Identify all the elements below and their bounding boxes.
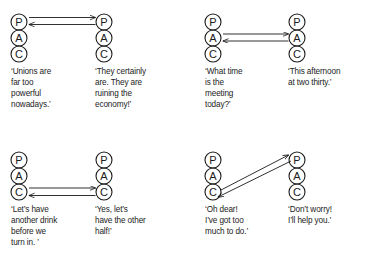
left-person-caption: ‘Unions are far too powerful nowadays.’: [11, 66, 91, 110]
ego-state-child-label: C: [15, 186, 23, 198]
ego-state-child-label: C: [15, 48, 23, 60]
transaction-arrow-stimulus: [221, 155, 289, 190]
transaction-panel-child-to-parent: P A C P A C ‘Oh dear! I’ve got too much …: [185, 138, 369, 275]
right-person-caption: ‘Don’t worry! I’ll help you.’: [288, 204, 369, 226]
ego-state-adult-label: A: [100, 32, 108, 44]
ego-state-adult-label: A: [209, 170, 217, 182]
ego-state-parent-label: P: [209, 16, 216, 28]
ego-state-adult-label: A: [100, 170, 108, 182]
ego-state-child-label: C: [209, 48, 217, 60]
left-person-caption: ‘What time is the meeting today?’: [205, 66, 283, 110]
ego-state-child-label: C: [293, 48, 301, 60]
ego-state-parent-label: P: [100, 16, 107, 28]
transaction-panel-child-to-child: P A C P A C ‘Let’s have another drink be…: [0, 138, 184, 275]
right-person-caption: ‘Yes, let’s have the other half!’: [95, 204, 181, 237]
pac-diagram: P A C P A C: [0, 0, 184, 68]
transaction-panel-adult-to-adult: P A C P A C ‘What time is the meeting to…: [185, 0, 369, 137]
ego-state-child-label: C: [293, 186, 301, 198]
ego-state-parent-label: P: [15, 16, 22, 28]
ego-state-child-label: C: [209, 186, 217, 198]
pac-diagram: P A C P A C: [0, 138, 184, 206]
ego-state-adult-label: A: [209, 32, 217, 44]
right-person-caption: ‘They certainly are. They are ruining th…: [95, 66, 181, 110]
left-person-caption: ‘Oh dear! I’ve got too much to do.’: [205, 204, 285, 237]
ego-state-parent-label: P: [293, 154, 300, 166]
ego-state-parent-label: P: [15, 154, 22, 166]
ego-state-parent-label: P: [293, 16, 300, 28]
ego-state-adult-label: A: [293, 32, 301, 44]
ego-state-child-label: C: [100, 186, 108, 198]
right-person-caption: ‘This afternoon at two thirty.’: [288, 66, 369, 88]
transaction-arrow-response: [218, 161, 291, 197]
ego-state-child-label: C: [100, 48, 108, 60]
ego-state-adult-label: A: [293, 170, 301, 182]
ego-state-adult-label: A: [15, 170, 23, 182]
ego-state-parent-label: P: [100, 154, 107, 166]
ego-state-parent-label: P: [209, 154, 216, 166]
pac-diagram: P A C P A C: [185, 0, 369, 68]
left-person-caption: ‘Let’s have another drink before we turn…: [11, 204, 95, 248]
transaction-panel-parent-to-parent: P A C P A C ‘Unions are far too powerful…: [0, 0, 184, 137]
pac-diagram: P A C P A C: [185, 138, 369, 206]
ego-state-adult-label: A: [15, 32, 23, 44]
